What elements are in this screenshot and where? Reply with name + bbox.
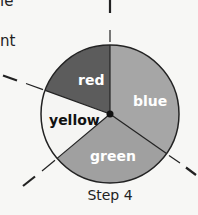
- label-green: green: [90, 148, 136, 164]
- spinner-diagram: red blue green yellow: [0, 0, 198, 215]
- diagram-caption: Step 4: [0, 187, 198, 203]
- spinner-center-dot: [107, 111, 114, 118]
- label-blue: blue: [133, 93, 167, 109]
- label-yellow: yellow: [49, 112, 100, 128]
- label-red: red: [78, 72, 104, 88]
